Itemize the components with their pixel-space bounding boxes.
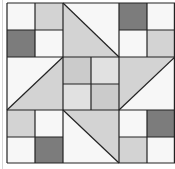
center-cell (91, 57, 119, 84)
quilt-cell-top-left (35, 30, 63, 57)
center-cell (63, 57, 91, 84)
quilt-cell-bottom-left (7, 137, 35, 163)
quilt-cell-bottom-left (7, 110, 35, 137)
quilt-cell-top-left (35, 3, 63, 30)
quilt-cell-top-right (119, 30, 147, 57)
quilt-cell-top-left (7, 3, 35, 30)
quilt-cell-bottom-left (35, 110, 63, 137)
quilt-cell-top-left (7, 30, 35, 57)
quilt-cell-bottom-right (147, 110, 175, 137)
quilt-cell-top-right (147, 3, 175, 30)
center-cell (91, 84, 119, 110)
quilt-block-figure (0, 0, 175, 169)
quilt-cell-bottom-right (119, 137, 147, 163)
quilt-cell-top-right (147, 30, 175, 57)
quilt-cell-bottom-left (35, 137, 63, 163)
quilt-cell-bottom-right (147, 137, 175, 163)
quilt-cell-top-right (119, 3, 147, 30)
center-cell (63, 84, 91, 110)
quilt-cell-bottom-right (119, 110, 147, 137)
